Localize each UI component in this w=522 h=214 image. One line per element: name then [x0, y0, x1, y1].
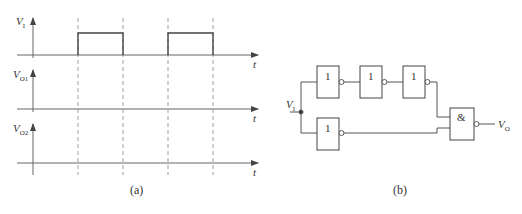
- output-label: VO: [498, 118, 510, 133]
- dashed-guides: [78, 18, 213, 175]
- caption-a: (a): [130, 183, 143, 197]
- t-label-3: t: [253, 166, 257, 178]
- inverter-4-symbol: 1: [325, 122, 331, 134]
- vi-pulse-1: [78, 33, 123, 55]
- timing-diagram: [17, 18, 258, 175]
- inverter-1-symbol: 1: [325, 70, 331, 82]
- t-label-1: t: [253, 58, 257, 70]
- logic-circuit: [290, 66, 495, 150]
- figure-canvas: VI VO1 VO2 t t t (a) 1 1 1 1: [0, 0, 522, 214]
- caption-b: (b): [393, 183, 407, 197]
- input-label: VI: [286, 98, 296, 113]
- label-vo2: VO2: [13, 122, 29, 137]
- label-vo1: VO1: [13, 68, 29, 83]
- junction-dot: [299, 110, 303, 114]
- inverter-3-symbol: 1: [411, 70, 417, 82]
- nand-symbol: &: [457, 111, 466, 123]
- inverter-2-symbol: 1: [368, 70, 374, 82]
- t-label-2: t: [253, 112, 257, 124]
- label-vi: VI: [16, 15, 26, 30]
- vi-pulse-2: [168, 33, 213, 55]
